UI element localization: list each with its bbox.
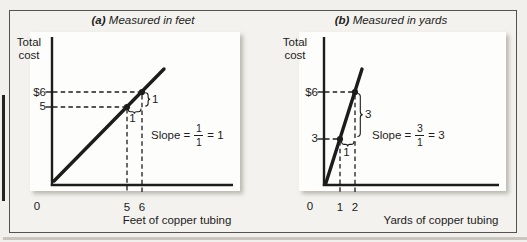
x-tick-label-6-a: 6 <box>135 201 149 214</box>
slope-fraction-a: 1 1 <box>194 123 203 147</box>
charts-graphics <box>0 0 527 242</box>
y-axis-title-a-line1: Total <box>8 36 50 49</box>
slope-fraction-b: 3 1 <box>415 123 424 147</box>
slope-prefix-b: Slope = <box>372 129 411 141</box>
origin-label-b: 0 <box>303 200 317 213</box>
panel-b-plot <box>318 37 500 192</box>
y-axis-title-b-line2: cost <box>274 49 316 62</box>
y-tick-label-5-a: 5 <box>18 100 46 113</box>
figure-bottom-shadow <box>3 237 527 240</box>
run-label-b: 1 <box>340 146 353 159</box>
slope-formula-a: Slope = 1 1 = 1 <box>151 123 224 147</box>
x-tick-label-2-b: 2 <box>348 201 362 214</box>
slope-prefix-a: Slope = <box>151 129 190 141</box>
slope-denominator-b: 1 <box>417 137 423 148</box>
x-tick-label-1-b: 1 <box>333 201 347 214</box>
slope-denominator-a: 1 <box>196 137 202 148</box>
run-label-a: 1 <box>126 112 139 125</box>
panel-a-title-tag: (a) <box>92 14 106 26</box>
panel-a-title-text: Measured in feet <box>109 14 195 26</box>
data-point-6ft-6 <box>139 89 145 95</box>
slope-numerator-b: 3 <box>417 123 423 134</box>
panel-a-title: (a) Measured in feet <box>38 14 248 27</box>
cost-line-b <box>326 69 362 184</box>
y-tick-label-6-b: $6 <box>290 86 318 99</box>
slope-formula-b: Slope = 3 1 = 3 <box>372 123 445 147</box>
cost-line-a <box>54 69 164 181</box>
panel-b-title: (b) Measured in yards <box>288 14 494 27</box>
slope-result-b: = 3 <box>428 129 444 141</box>
x-axis-title-a: Feet of copper tubing <box>97 214 257 227</box>
panel-b-title-tag: (b) <box>335 14 350 26</box>
y-tick-label-3-b: 3 <box>290 132 318 145</box>
y-axis-title-a-line2: cost <box>8 49 50 62</box>
x-axis-title-b: Yards of copper tubing <box>361 214 521 227</box>
slope-result-a: = 1 <box>207 129 223 141</box>
scanned-figure-page: (a) Measured in feet Total cost $6 5 0 5… <box>0 0 527 242</box>
rise-brace-a <box>145 93 150 106</box>
data-point-5ft-5 <box>124 104 130 110</box>
origin-label-a: 0 <box>30 200 44 213</box>
data-point-1yd-3 <box>337 136 343 142</box>
panel-b-title-text: Measured in yards <box>353 14 448 26</box>
rise-brace-b <box>357 94 362 137</box>
y-axis-title-a: Total cost <box>8 36 50 62</box>
rise-label-b: 3 <box>365 108 375 121</box>
y-tick-label-6-a: $6 <box>18 86 46 99</box>
x-tick-label-5-a: 5 <box>120 201 134 214</box>
panel-a-plot <box>46 37 234 192</box>
rise-label-a: 1 <box>152 93 162 106</box>
slope-numerator-a: 1 <box>196 123 202 134</box>
y-axis-title-b-line1: Total <box>274 36 316 49</box>
y-axis-title-b: Total cost <box>274 36 316 62</box>
data-point-2yd-6 <box>352 89 358 95</box>
